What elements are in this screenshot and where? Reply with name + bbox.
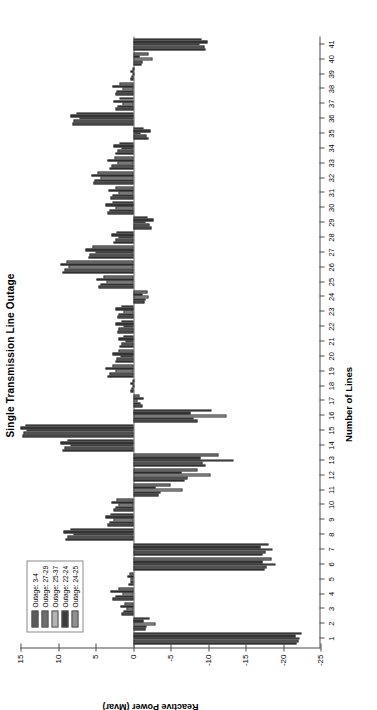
bar: [116, 231, 133, 234]
x-axis-tick-label: 5: [326, 577, 335, 581]
x-axis-tick-label: 4: [326, 591, 335, 595]
x-axis-tick: [319, 399, 324, 400]
x-axis-tick-label: 26: [326, 263, 335, 271]
bar: [112, 201, 133, 204]
y-axis-tick: [320, 643, 321, 651]
x-axis-tick-label: 21: [326, 337, 335, 345]
y-axis-tick-label: 15: [16, 654, 25, 663]
bar: [118, 349, 133, 352]
x-axis-tick-label: 29: [326, 218, 335, 226]
x-axis-tick: [319, 295, 324, 296]
x-axis-tick-label: 2: [326, 621, 335, 625]
bar: [70, 528, 133, 531]
bar: [133, 290, 147, 293]
legend-item: Outage: 24-25: [70, 565, 79, 627]
x-axis-tick-label: 22: [326, 322, 335, 330]
x-axis-tick: [319, 578, 324, 579]
x-axis-tick: [319, 221, 324, 222]
x-axis-tick-label: 9: [326, 517, 335, 521]
bar: [133, 468, 198, 471]
x-axis-tick: [319, 518, 324, 519]
x-axis-tick-label: 30: [326, 203, 335, 211]
bar: [133, 632, 301, 635]
y-axis-tick-label: -20: [278, 654, 287, 666]
x-axis-tick-label: 1: [326, 636, 335, 640]
bar: [133, 483, 171, 486]
x-axis-tick: [319, 132, 324, 133]
x-axis-tick: [319, 177, 324, 178]
x-axis-tick-label: 25: [326, 277, 335, 285]
x-axis-tick-label: 34: [326, 144, 335, 152]
y-axis-tick-label: -5: [166, 654, 175, 661]
bar: [132, 379, 134, 382]
x-axis-tick: [319, 622, 324, 623]
x-axis-tick: [319, 637, 324, 638]
x-axis-tick-label: 17: [326, 396, 335, 404]
bar: [129, 572, 133, 575]
bar: [110, 513, 133, 516]
bar: [133, 617, 150, 620]
x-axis-tick: [319, 414, 324, 415]
x-axis-tick: [319, 236, 324, 237]
y-axis-tick: [20, 643, 21, 651]
y-axis-tick: [133, 643, 134, 651]
y-axis-tick-label: -15: [241, 654, 250, 666]
bar: [115, 186, 133, 189]
legend-item: Outage: 3-4: [30, 565, 39, 627]
x-axis-tick: [319, 281, 324, 282]
y-axis-tick: [245, 643, 246, 651]
bar: [133, 453, 219, 456]
x-axis-tick: [319, 206, 324, 207]
y-axis-tick: [95, 643, 96, 651]
x-axis-tick-label: 12: [326, 471, 335, 479]
x-axis-tick-label: 19: [326, 367, 335, 375]
x-axis-tick: [319, 117, 324, 118]
x-axis-tick-label: 20: [326, 352, 335, 360]
x-axis-tick-label: 15: [326, 426, 335, 434]
bar: [118, 587, 133, 590]
bar: [124, 602, 132, 605]
bar: [66, 260, 133, 263]
x-axis-tick: [319, 444, 324, 445]
x-axis-tick-label: 27: [326, 248, 335, 256]
x-axis-tick-label: 41: [326, 40, 335, 48]
bar: [25, 424, 133, 427]
x-axis-tick-label: 35: [326, 129, 335, 137]
y-axis-tick-label: 10: [53, 654, 62, 663]
x-axis-label: Number of Lines: [342, 367, 353, 442]
bar: [92, 246, 133, 249]
y-axis-tick: [58, 643, 59, 651]
x-axis-tick-label: 39: [326, 69, 335, 77]
x-axis-tick: [319, 102, 324, 103]
x-axis-tick: [319, 385, 324, 386]
x-axis-tick: [319, 370, 324, 371]
bar: [133, 216, 147, 219]
x-axis-tick: [319, 533, 324, 534]
page-title: Single Transmission Line Outage: [4, 0, 15, 710]
x-axis-tick: [319, 87, 324, 88]
bar: [133, 127, 144, 130]
x-axis-tick: [319, 474, 324, 475]
x-axis-tick-label: 11: [326, 486, 335, 494]
x-axis-tick-label: 16: [326, 411, 335, 419]
bar: [112, 364, 133, 367]
plot-area: 151050-5-10-15-20-25 1234567891011121314…: [20, 36, 320, 648]
screenshot-root: Single Transmission Line Outage 151050-5…: [0, 0, 377, 710]
bar: [133, 557, 271, 560]
x-axis-tick: [319, 73, 324, 74]
x-axis-tick-label: 32: [326, 173, 335, 181]
x-axis-tick: [319, 429, 324, 430]
x-axis-tick-label: 37: [326, 99, 335, 107]
bar: [121, 320, 133, 323]
bar: [133, 409, 212, 412]
x-axis-tick: [319, 340, 324, 341]
y-axis-tick: [170, 643, 171, 651]
bar: [97, 171, 132, 174]
legend-label: Outage: 22-24: [61, 565, 68, 607]
bar: [133, 52, 148, 55]
x-axis-tick-label: 23: [326, 307, 335, 315]
x-axis-tick-label: 7: [326, 547, 335, 551]
legend-label: Outage: 3-4: [31, 573, 38, 607]
legend-label: Outage: 24-25: [71, 565, 78, 607]
x-axis-tick: [319, 607, 324, 608]
